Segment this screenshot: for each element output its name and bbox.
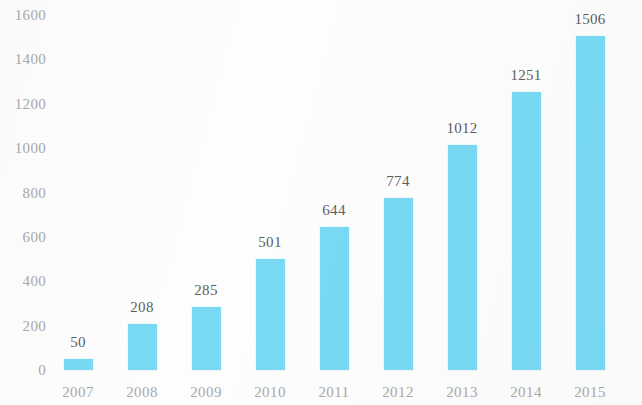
x-axis-tick-label: 2013 (430, 384, 494, 401)
bar[interactable] (448, 145, 477, 370)
y-axis-tick-label: 1000 (0, 140, 46, 157)
bar-group: 7742012 (366, 0, 430, 405)
bar-value-label: 1251 (494, 67, 558, 84)
y-axis-tick-label: 0 (0, 362, 46, 379)
x-axis-tick-label: 2007 (46, 384, 110, 401)
bar[interactable] (256, 259, 285, 370)
bar-group: 12512014 (494, 0, 558, 405)
x-axis-tick-label: 2011 (302, 384, 366, 401)
bar-value-label: 501 (238, 234, 302, 251)
bar-value-label: 644 (302, 202, 366, 219)
bar-group: 5012010 (238, 0, 302, 405)
bar-group: 502007 (46, 0, 110, 405)
y-axis-tick-label: 1200 (0, 95, 46, 112)
bar-chart: 0200400600800100012001400160050200720820… (0, 0, 642, 405)
x-axis-tick-label: 2010 (238, 384, 302, 401)
bar-value-label: 50 (46, 334, 110, 351)
bar-group: 2082008 (110, 0, 174, 405)
bar[interactable] (320, 227, 349, 370)
plot-area: 0200400600800100012001400160050200720820… (0, 0, 642, 405)
y-axis-tick-label: 200 (0, 317, 46, 334)
bar-value-label: 1012 (430, 120, 494, 137)
bar-value-label: 208 (110, 299, 174, 316)
bar-value-label: 774 (366, 173, 430, 190)
y-axis-tick-label: 1400 (0, 51, 46, 68)
bar[interactable] (128, 324, 157, 370)
y-axis-tick-label: 1600 (0, 7, 46, 24)
x-axis-tick-label: 2009 (174, 384, 238, 401)
bar[interactable] (384, 198, 413, 370)
bar[interactable] (64, 359, 93, 370)
bar[interactable] (192, 307, 221, 370)
x-axis-tick-label: 2015 (558, 384, 622, 401)
bar-group: 15062015 (558, 0, 622, 405)
bar-group: 2852009 (174, 0, 238, 405)
bar-group: 10122013 (430, 0, 494, 405)
bar-value-label: 1506 (558, 11, 622, 28)
y-axis-tick-label: 400 (0, 273, 46, 290)
y-axis-tick-label: 800 (0, 184, 46, 201)
bar-value-label: 285 (174, 282, 238, 299)
x-axis-tick-label: 2014 (494, 384, 558, 401)
bar-group: 6442011 (302, 0, 366, 405)
x-axis-tick-label: 2008 (110, 384, 174, 401)
bar[interactable] (512, 92, 541, 370)
bar[interactable] (576, 36, 605, 370)
x-axis-tick-label: 2012 (366, 384, 430, 401)
y-axis-tick-label: 600 (0, 228, 46, 245)
